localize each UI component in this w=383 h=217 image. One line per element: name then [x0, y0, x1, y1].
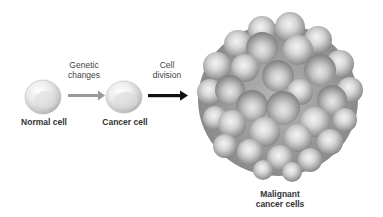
malignant-label-line2: cancer cells: [245, 199, 315, 209]
malignant-label-line1: Malignant: [245, 189, 315, 199]
normal-cell-icon: [25, 80, 61, 114]
genetic-changes-label: Genetic changes: [60, 60, 108, 80]
genetic-changes-arrow-icon: [68, 91, 105, 101]
transition-label-line2: changes: [60, 70, 108, 80]
cancer-cell-icon: [106, 81, 142, 113]
cell-division-label: Cell division: [146, 60, 188, 80]
cell-division-arrow-icon: [148, 91, 188, 101]
malignant-cluster-icon: [197, 12, 363, 182]
transition-label-line2: division: [146, 70, 188, 80]
diagram-canvas: [0, 0, 383, 217]
malignant-cells-label: Malignant cancer cells: [245, 189, 315, 209]
normal-cell-label: Normal cell: [14, 117, 74, 127]
cancer-cell-label: Cancer cell: [94, 117, 156, 127]
transition-label-line1: Cell: [146, 60, 188, 70]
transition-label-line1: Genetic: [60, 60, 108, 70]
